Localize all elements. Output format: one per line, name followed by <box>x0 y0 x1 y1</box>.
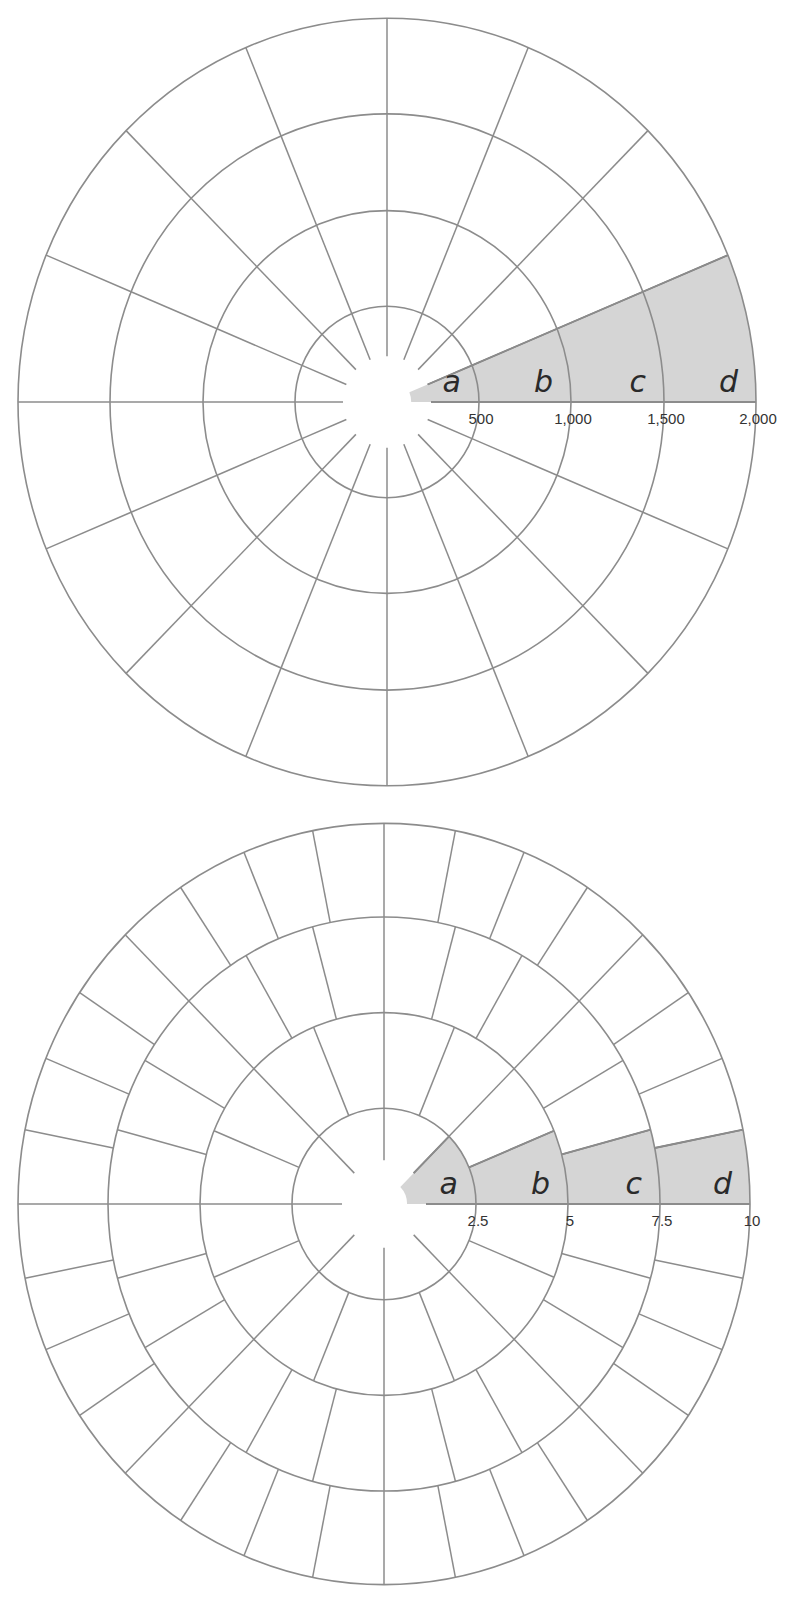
ring-letter-d: d <box>713 1166 733 1201</box>
spoke <box>46 1314 129 1350</box>
spoke <box>449 1272 514 1340</box>
spoke <box>583 131 648 199</box>
spoke <box>514 1001 579 1069</box>
ring-letter-a: a <box>443 364 461 399</box>
spoke <box>257 470 322 538</box>
spoke <box>191 198 257 266</box>
ring-letter-d: d <box>719 364 739 399</box>
spoke <box>46 1058 129 1094</box>
spoke <box>472 439 557 476</box>
spoke <box>117 1130 206 1155</box>
spoke <box>246 1370 292 1453</box>
spoke <box>131 292 217 329</box>
ring-letter-b: b <box>531 1166 550 1201</box>
shaded-wedge <box>409 255 756 402</box>
spoke <box>254 1272 319 1340</box>
spoke <box>404 444 422 490</box>
tick-label: 500 <box>468 410 493 427</box>
spoke <box>302 365 346 384</box>
spoke <box>145 1300 225 1348</box>
spoke <box>639 1314 722 1350</box>
tick-label: 10 <box>744 1212 761 1229</box>
spoke <box>126 131 191 199</box>
spoke <box>428 420 472 439</box>
spoke <box>643 512 728 549</box>
spoke <box>537 888 587 966</box>
ring-letter-b: b <box>534 364 553 399</box>
spoke <box>517 198 583 266</box>
polar-diagram-bottom: abcd 2.557.510 <box>0 800 791 1598</box>
spoke <box>214 1241 299 1278</box>
spoke <box>493 668 528 756</box>
spoke <box>469 1241 554 1278</box>
spoke <box>352 444 370 490</box>
spoke <box>217 329 302 366</box>
spoke <box>404 314 422 360</box>
spoke <box>579 935 643 1001</box>
spoke <box>181 1443 231 1521</box>
spoke <box>517 537 583 605</box>
spoke <box>414 1235 449 1272</box>
spoke <box>46 255 131 292</box>
spoke <box>422 490 457 578</box>
spokes <box>18 18 756 786</box>
spoke <box>476 1370 522 1453</box>
spoke <box>314 1292 349 1380</box>
spoke <box>543 1060 623 1108</box>
tick-label: 2,000 <box>739 410 777 427</box>
shaded-cell-c <box>557 292 664 402</box>
spoke <box>281 136 317 225</box>
shaded-cell-d <box>655 1130 750 1204</box>
spoke <box>302 420 346 439</box>
spoke <box>613 1363 688 1415</box>
polar-grid-bottom-svg: abcd 2.557.510 <box>0 800 791 1598</box>
spoke <box>254 1069 319 1137</box>
tick-labels: 5001,0001,5002,000 <box>468 410 776 427</box>
spoke <box>562 1254 651 1279</box>
tick-label: 1,500 <box>647 410 685 427</box>
spoke <box>25 1130 113 1148</box>
spoke <box>25 1260 113 1278</box>
spoke <box>493 47 528 135</box>
spoke <box>244 1469 278 1555</box>
spoke <box>46 512 131 549</box>
spoke <box>246 47 281 135</box>
center-hole <box>365 379 409 425</box>
tick-labels: 2.557.510 <box>468 1212 761 1229</box>
ring-letter-c: c <box>626 1166 643 1201</box>
spoke <box>317 225 352 313</box>
spoke <box>432 1389 456 1481</box>
spoke <box>125 935 189 1001</box>
spoke <box>145 1060 225 1108</box>
ring-letter-c: c <box>630 364 647 399</box>
spoke <box>490 852 524 938</box>
shaded-cell-b <box>472 329 571 402</box>
spoke <box>281 579 317 668</box>
spoke <box>583 606 648 674</box>
polar-diagram-top: abcd 5001,0001,5002,000 <box>0 0 791 800</box>
spoke <box>317 490 352 578</box>
spoke <box>557 475 643 512</box>
spoke <box>246 668 281 756</box>
spoke <box>514 1339 579 1407</box>
spoke <box>452 267 517 335</box>
spoke <box>418 434 452 469</box>
spoke <box>490 1469 524 1555</box>
spoke <box>613 993 688 1045</box>
spoke <box>449 1069 514 1137</box>
polar-grid-top-svg: abcd 5001,0001,5002,000 <box>0 0 791 800</box>
spoke <box>438 831 456 923</box>
spoke <box>313 927 337 1019</box>
spoke <box>457 136 493 225</box>
spoke <box>181 888 231 966</box>
spoke <box>639 1058 722 1094</box>
tick-label: 2.5 <box>468 1212 489 1229</box>
spoke <box>313 1389 337 1481</box>
spoke <box>655 1260 743 1278</box>
spoke <box>244 852 278 938</box>
spoke <box>80 1363 155 1415</box>
tick-label: 7.5 <box>652 1212 673 1229</box>
spoke <box>543 1300 623 1348</box>
spoke <box>217 439 302 476</box>
spoke <box>314 1027 349 1115</box>
